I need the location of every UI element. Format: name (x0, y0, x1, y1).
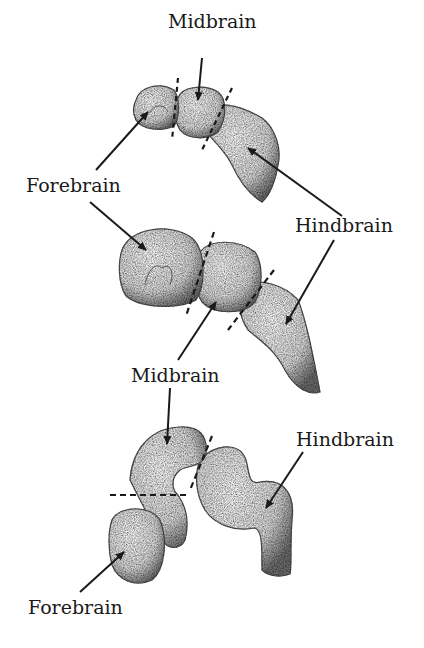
midbrain-label-shared-2-3: Midbrain (131, 366, 220, 385)
stage-1-embryo-brain (96, 58, 342, 216)
stage-2-midbrain-shape (196, 242, 261, 312)
stage-1-forebrain-arrow (96, 112, 148, 170)
stage-3-forebrain-shape (109, 509, 164, 583)
stage-3-hindbrain-label: Hindbrain (296, 430, 394, 449)
stage-3-hindbrain-shape (197, 447, 293, 576)
stage-2-forebrain-arrow (90, 202, 146, 250)
hindbrain-label-shared-1-2: Hindbrain (295, 216, 393, 235)
stage-2-hindbrain-arrow (286, 240, 334, 324)
stage-1-forebrain-shape (133, 86, 178, 129)
brain-development-diagram: Midbrain Forebrain Hindbrain Midbrain Hi… (0, 0, 424, 648)
stage-3-embryo-brain (80, 388, 303, 592)
diagram-canvas (0, 0, 424, 648)
forebrain-label-shared-1-2: Forebrain (26, 176, 121, 195)
stage-1-midbrain-shape (175, 87, 225, 138)
stage-2-midbrain-arrow (178, 302, 216, 360)
stage-3-forebrain-label: Forebrain (28, 598, 123, 617)
stage-1-midbrain-label: Midbrain (168, 12, 257, 31)
